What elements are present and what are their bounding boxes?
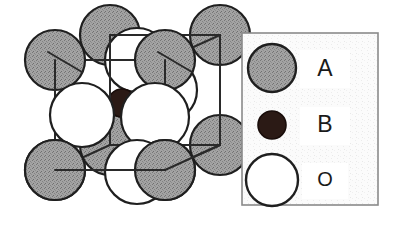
perovskite-structure-figure: A B O xyxy=(0,0,404,231)
legend-label-b: B xyxy=(317,111,332,137)
atom-o-face-left xyxy=(50,83,114,147)
legend-label-o: O xyxy=(317,168,333,190)
legend-label-a: A xyxy=(317,55,333,81)
legend-box: A B O xyxy=(242,33,378,206)
legend-swatch-b-icon xyxy=(258,111,286,139)
legend-swatch-o-icon xyxy=(246,154,298,206)
legend-item-b: B xyxy=(258,107,350,145)
legend-swatch-a-icon xyxy=(248,44,296,92)
